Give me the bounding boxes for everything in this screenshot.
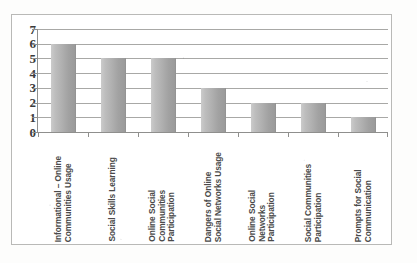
y-axis-tick-mark — [32, 88, 38, 89]
x-axis-category-label-line: Participation — [268, 190, 278, 242]
bar — [51, 44, 76, 132]
x-axis-category-label: Social CommunitiesParticipation — [288, 136, 338, 242]
x-axis-category-label-text: Social CommunitiesParticipation — [303, 164, 322, 242]
x-axis-category-labels: Informational – OnlineCommunities UsageS… — [38, 136, 388, 242]
y-axis-tick-mark — [32, 103, 38, 104]
x-axis-category-label-text: Online SocialCommunitiesParticipation — [149, 190, 178, 242]
x-axis-category-label-text: Prompts for SocialCommunication — [353, 169, 372, 242]
bar — [251, 103, 276, 132]
y-axis-tick-mark — [32, 44, 38, 45]
y-axis-tick-mark — [32, 58, 38, 59]
y-axis-tick-mark — [32, 73, 38, 74]
y-axis-tick-mark — [32, 132, 38, 133]
x-axis-category-label-text: Dangers of OnlineSocial Networks Usage — [203, 152, 222, 242]
x-axis-category-label-line: Informational – Online — [53, 156, 63, 242]
x-axis-category-label: Online SocialCommunitiesParticipation — [138, 136, 188, 242]
x-axis-category-label-text: Online SocialNetworksParticipation — [249, 190, 278, 242]
x-axis-category-label-line: Social Skills Learning — [108, 158, 118, 242]
bar — [301, 103, 326, 132]
x-axis-category-label: Online SocialNetworksParticipation — [238, 136, 288, 242]
y-axis-tick-labels: 01234567 — [14, 24, 36, 136]
x-axis-category-label-text: Social Skills Learning — [108, 158, 118, 242]
x-axis-category-label-line: Communication — [363, 169, 373, 242]
x-axis-category-label-line: Participation — [168, 190, 178, 242]
bar — [151, 58, 176, 132]
x-axis-category-label-line: Communities Usage — [63, 156, 73, 242]
bar — [351, 117, 376, 132]
x-axis-category-label: Informational – OnlineCommunities Usage — [38, 136, 88, 242]
bar-series — [38, 29, 388, 132]
bar-chart-figure: 01234567 Informational – OnlineCommuniti… — [0, 0, 417, 263]
y-axis-tick-mark — [32, 29, 38, 30]
y-axis-tick-mark — [32, 117, 38, 118]
bar — [101, 58, 126, 132]
x-axis-category-label: Prompts for SocialCommunication — [338, 136, 388, 242]
bar — [201, 88, 226, 132]
x-axis-category-label-line: Prompts for Social — [353, 169, 363, 242]
x-axis-category-label: Social Skills Learning — [88, 136, 138, 242]
x-axis-category-label-line: Dangers of Online — [203, 152, 213, 242]
x-axis-category-label-line: Social Networks Usage — [213, 152, 223, 242]
x-axis-category-label: Dangers of OnlineSocial Networks Usage — [188, 136, 238, 242]
x-axis-category-label-line: Participation — [313, 164, 323, 242]
x-axis-category-label-text: Informational – OnlineCommunities Usage — [53, 156, 72, 242]
x-axis-category-label-line: Social Communities — [303, 164, 313, 242]
